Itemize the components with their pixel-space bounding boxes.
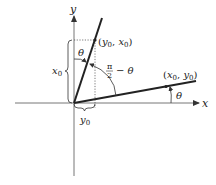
vertical-brace [65,40,72,103]
complement-denominator: 2 [107,71,112,80]
complement-rest: − θ [116,65,134,76]
y-axis-label: y [69,3,77,16]
rotation-diagram: x y (y0, x0) (x0, y0) θ π 2 − θ θ x0 y0 [0,0,216,185]
theta-right-label: θ [176,90,182,101]
horizontal-brace-label: y0 [79,114,90,127]
theta-arc-right [170,87,171,103]
vertical-brace-label: x0 [52,65,62,78]
rotated-point-label: (y0, x0) [98,36,133,49]
x-axis-label: x [202,97,209,110]
rotated-point [93,38,96,41]
theta-top-label: θ [78,47,84,58]
original-point-label: (x0, y0) [163,69,198,82]
rotated-vector-line [74,18,102,103]
horizontal-brace [74,104,95,111]
complement-label: π [107,62,112,71]
theta-arc-top [74,59,86,62]
original-point [164,85,167,88]
